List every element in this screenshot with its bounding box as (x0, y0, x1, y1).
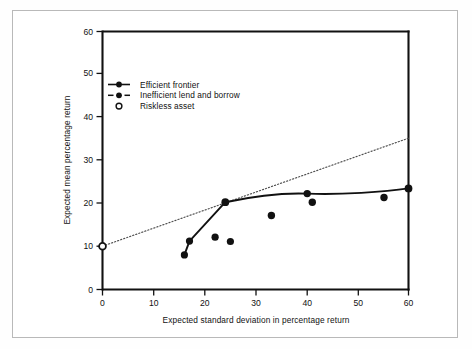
legend-filled-dot-icon (116, 92, 122, 98)
x-tick-label-60: 60 (404, 298, 414, 308)
y-tick-label-30: 30 (83, 155, 93, 165)
data-point-marker-tangency (221, 198, 229, 206)
y-tick-label-20: 20 (83, 198, 93, 208)
legend-entry-efficient-frontier: Efficient frontier (108, 80, 199, 90)
x-tick-label-50: 50 (354, 298, 364, 308)
legend-open-circle-icon (116, 103, 122, 109)
riskless-asset-marker (99, 243, 106, 250)
data-point-marker (309, 199, 316, 206)
plot-frame (103, 31, 410, 291)
x-axis-title: Expected standard deviation in percentag… (162, 315, 349, 325)
y-axis-tick-labels: 0 10 20 30 40 50 60 (83, 27, 93, 295)
x-tick-label-40: 40 (302, 298, 312, 308)
legend-entry-inefficient-lend-borrow: Inefficient lend and borrow (108, 90, 241, 100)
data-point-marker (405, 185, 413, 193)
x-tick-label-10: 10 (149, 298, 159, 308)
data-point-marker (304, 190, 311, 197)
x-tick-label-20: 20 (200, 298, 210, 308)
y-tick-label-50: 50 (83, 68, 93, 78)
legend-label-riskless-asset: Riskless asset (140, 101, 195, 111)
x-tick-label-0: 0 (100, 298, 105, 308)
legend-label-inefficient-lend-borrow: Inefficient lend and borrow (140, 90, 241, 100)
y-tick-label-10: 10 (83, 241, 93, 251)
efficient-frontier-line (184, 188, 408, 255)
figure-canvas: 0 10 20 30 40 50 60 0 10 20 30 40 50 60 (0, 0, 472, 349)
data-point-marker (181, 251, 188, 258)
y-tick-label-0: 0 (88, 285, 93, 295)
x-axis-tick-labels: 0 10 20 30 40 50 60 (100, 298, 413, 308)
chart-legend: Efficient frontier Inefficient lend and … (108, 80, 241, 112)
data-point-marker (212, 234, 219, 241)
y-tick-label-60: 60 (83, 27, 93, 37)
scatter-chart: 0 10 20 30 40 50 60 0 10 20 30 40 50 60 (0, 0, 472, 349)
efficient-frontier-markers (181, 185, 413, 259)
x-tick-label-30: 30 (251, 298, 261, 308)
inefficient-portfolio-markers (212, 194, 388, 245)
y-tick-label-40: 40 (83, 112, 93, 122)
data-point-marker (227, 238, 234, 245)
legend-filled-dot-icon (116, 82, 122, 88)
data-point-marker (268, 212, 275, 219)
data-point-marker (186, 238, 193, 245)
legend-label-efficient-frontier: Efficient frontier (140, 80, 199, 90)
legend-entry-riskless-asset: Riskless asset (116, 101, 195, 111)
y-axis-title: Expected mean percentage return (62, 95, 72, 224)
data-point-marker (380, 194, 387, 201)
